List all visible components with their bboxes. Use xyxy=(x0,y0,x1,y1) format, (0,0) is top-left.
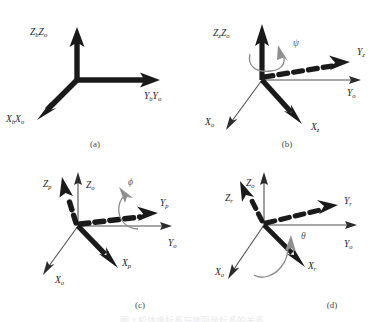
axis-x-b-o xyxy=(37,80,77,120)
axis-x-o xyxy=(228,225,264,279)
axis-x-o xyxy=(226,80,262,130)
z-ground-label: Zo xyxy=(246,178,255,189)
caption-a: (a) xyxy=(75,139,115,149)
phi-rotation-arc xyxy=(119,187,138,229)
caption-c: (c) xyxy=(120,300,160,310)
z-body-label: Zr xyxy=(225,193,233,204)
psi-angle-label: ψ xyxy=(293,38,300,48)
x-axis-label: XbXo xyxy=(5,114,25,125)
axis-y-o xyxy=(78,222,172,230)
panel-d: θ Zo Zr Yr Yo Xo Xr xyxy=(192,161,384,322)
axis-z-p-dashed xyxy=(60,177,77,223)
axis-y-z-dashed xyxy=(264,56,350,78)
caption-d: (d) xyxy=(312,300,352,310)
panel-a: ZbZo YbYo XbXo xyxy=(0,0,192,161)
panel-c: ϕ Zp Zo Yp Yo Xp Xo xyxy=(0,161,192,322)
y-ground-label: Yo xyxy=(347,88,356,99)
axis-y-b-o xyxy=(77,73,160,88)
z-axis-label: ZbZo xyxy=(30,27,48,38)
panel-c-diagram: ϕ Zp Zo Yp Yo Xp Xo xyxy=(0,161,192,322)
theta-rotation-arc xyxy=(254,235,296,277)
z-ground-label: Zo xyxy=(86,180,95,191)
axis-z-b-o xyxy=(70,27,85,80)
y-body-label: Yr xyxy=(344,196,352,207)
x-ground-label: Xo xyxy=(54,275,65,286)
y-axis-label: YbYo xyxy=(144,91,162,102)
y-ground-label: Yo xyxy=(168,238,177,249)
panel-a-diagram: ZbZo YbYo XbXo xyxy=(0,0,192,161)
axis-y-r-dashed xyxy=(266,200,338,223)
theta-angle-label: θ xyxy=(301,231,306,241)
figure-bottom-caption: 图 2 机体坐标系与地面坐标系的关系 xyxy=(0,314,384,322)
figure-container: ZbZo YbYo XbXo xyxy=(0,0,384,322)
x-ground-label: Xo xyxy=(204,117,215,128)
axis-x-z xyxy=(262,80,302,124)
panel-b-diagram: ψ ZzZo Yz Yo Xo Xz xyxy=(192,0,384,161)
axis-x-p xyxy=(78,226,118,268)
y-body-label: Yp xyxy=(160,198,169,209)
axis-y-o xyxy=(262,76,361,84)
panel-d-diagram: θ Zo Zr Yr Yo Xo Xr xyxy=(192,161,384,322)
y-ground-label: Yo xyxy=(344,239,353,250)
z-axis-label: ZzZo xyxy=(213,28,230,39)
axis-x-o xyxy=(43,226,78,275)
psi-rotation-arc xyxy=(249,45,288,71)
x-body-label: Xp xyxy=(121,258,132,269)
x-body-label: Xr xyxy=(307,261,317,272)
panel-b: ψ ZzZo Yz Yo Xo Xz xyxy=(192,0,384,161)
x-ground-label: Xo xyxy=(214,267,225,278)
z-body-label: Zp xyxy=(43,179,52,190)
phi-angle-label: ϕ xyxy=(128,177,133,187)
x-body-label: Xz xyxy=(310,122,320,133)
y-body-label: Yz xyxy=(357,47,365,58)
caption-b: (b) xyxy=(267,139,307,149)
axis-y-o xyxy=(264,221,357,229)
